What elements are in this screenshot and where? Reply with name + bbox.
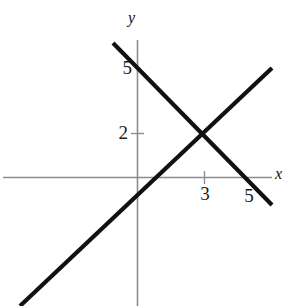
y-tick-label-2: 2 [112, 123, 128, 142]
ascending-line [20, 68, 272, 306]
y-axis-label: y [128, 10, 135, 26]
line-graph-figure: y x 5 2 3 5 [0, 0, 288, 306]
y-tick-label-5: 5 [116, 58, 132, 77]
plot-canvas [0, 0, 288, 306]
x-tick-label-3: 3 [197, 184, 213, 203]
x-axis-label: x [275, 166, 282, 182]
x-tick-label-5: 5 [241, 186, 257, 205]
